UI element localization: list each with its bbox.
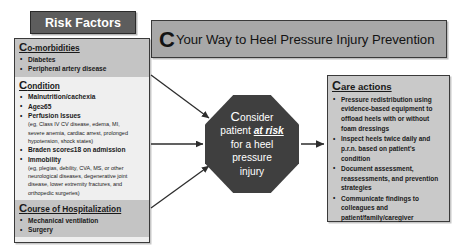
- risk-list-item-detail: (eg, Class IV CV disease, edema, MI,: [19, 120, 145, 128]
- risk-list-item: Peripheral artery disease: [19, 64, 145, 73]
- header-banner: C Your Way to Heel Pressure Injury Preve…: [151, 20, 447, 58]
- risk-factors-title: Risk Factors: [30, 11, 136, 34]
- risk-section-lead-letter: C: [19, 41, 27, 53]
- care-actions-heading-rest: are actions: [341, 81, 392, 92]
- risk-list-item-detail: orthopedic surgeries): [19, 189, 145, 197]
- risk-section-2: Course of HospitalizationMechanical vent…: [15, 200, 149, 238]
- risk-section-list: DiabetesPeripheral artery disease: [19, 55, 145, 74]
- risk-list-item: Diabetes: [19, 55, 145, 64]
- header-lead-letter: C: [159, 29, 175, 51]
- care-actions-panel: Care actions Pressure redistribution usi…: [327, 75, 450, 222]
- octagon-line1: onsider: [240, 112, 273, 123]
- risk-list-item: Perfusion Issues: [19, 111, 145, 120]
- risk-section-list: Malnutrition/cachexiaAge≥65Perfusion Iss…: [19, 92, 145, 197]
- risk-list-item: Surgery: [19, 225, 145, 234]
- risk-section-heading-rest: o-morbidities: [27, 43, 80, 53]
- risk-list-item-detail: severe anemia, cardiac arrest, prolonged: [19, 129, 145, 137]
- risk-list-item-detail: neurological diseases, degenerative join…: [19, 172, 145, 180]
- risk-section-heading: Co-morbidities: [19, 42, 145, 53]
- octagon-line5: injury: [240, 166, 264, 177]
- octagon-at-risk-emphasis: at risk: [254, 125, 284, 136]
- risk-factors-panel: Co-morbiditiesDiabetesPeripheral artery …: [14, 38, 150, 243]
- risk-section-heading: Condition: [19, 80, 145, 91]
- care-action-item: Inspect heels twice daily and p.r.n. bas…: [332, 134, 444, 163]
- care-actions-heading: Care actions: [332, 80, 444, 93]
- risk-section-1: ConditionMalnutrition/cachexiaAge≥65Perf…: [15, 77, 149, 200]
- octagon-text: Consider patient at risk for a heel pres…: [218, 110, 285, 178]
- octagon-line3: for a heel: [231, 139, 273, 150]
- arrow-course-to-octagon: [151, 166, 209, 208]
- risk-list-item: Immobility: [19, 155, 145, 164]
- risk-section-list: Mechanical ventilationSurgery: [19, 216, 145, 235]
- risk-section-lead-letter: C: [19, 202, 27, 214]
- risk-section-heading: Course of Hospitalization: [19, 203, 145, 214]
- risk-section-0: Co-morbiditiesDiabetesPeripheral artery …: [15, 39, 149, 77]
- risk-list-item-detail: (eg, plegias, debility, CVA, MS, or othe…: [19, 164, 145, 172]
- risk-section-heading-rest: ourse of Hospitalization: [27, 204, 121, 214]
- risk-list-item: Braden score≤18 on admission: [19, 145, 145, 154]
- risk-list-item: Mechanical ventilation: [19, 216, 145, 225]
- risk-list-item-detail: hypotension, shock states): [19, 137, 145, 145]
- risk-list-item-detail: disease, lower extremity fractures, and: [19, 180, 145, 188]
- octagon-lead-letter: C: [231, 109, 240, 124]
- octagon-line4: pressure: [232, 152, 272, 163]
- care-action-item: Pressure redistribution using evidence-b…: [332, 95, 444, 134]
- care-actions-lead-letter: C: [332, 79, 341, 93]
- octagon-line2-prefix: patient: [220, 125, 253, 136]
- care-action-item: Communicate findings to colleagues and p…: [332, 194, 444, 223]
- risk-list-item: Malnutrition/cachexia: [19, 92, 145, 101]
- care-action-item: Document assessment, reassessments, and …: [332, 164, 444, 193]
- central-octagon: Consider patient at risk for a heel pres…: [205, 95, 299, 193]
- risk-section-lead-letter: C: [19, 79, 27, 91]
- care-actions-list: Pressure redistribution using evidence-b…: [332, 95, 444, 223]
- risk-section-heading-rest: ondition: [27, 81, 60, 91]
- risk-list-item: Age≥65: [19, 102, 145, 111]
- header-title: Your Way to Heel Pressure Injury Prevent…: [176, 32, 435, 47]
- arrow-comorbidities-to-octagon: [151, 75, 209, 118]
- risk-factors-title-label: Risk Factors: [45, 16, 121, 30]
